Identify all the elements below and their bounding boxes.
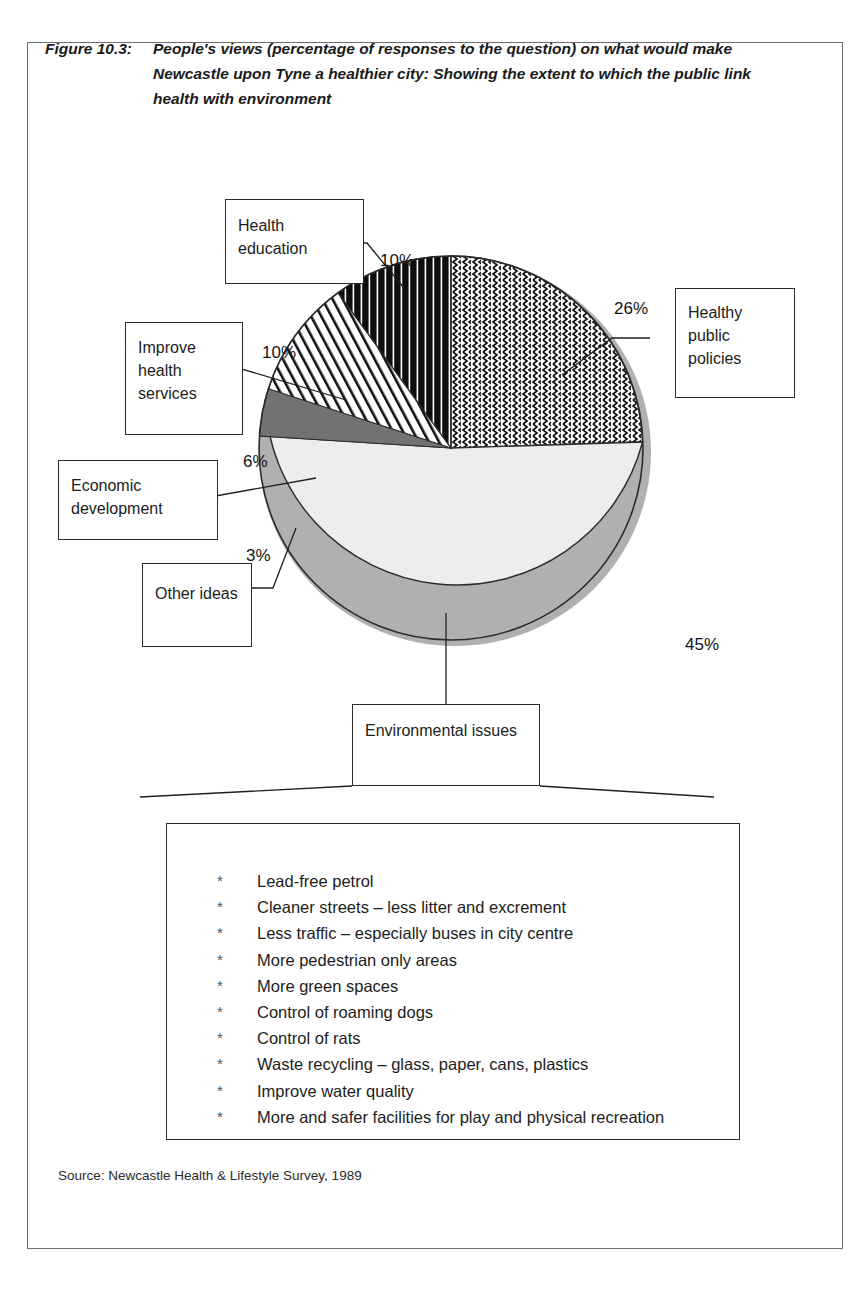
callout-health-education[interactable]: Health education <box>225 199 364 284</box>
callout-economic-development-label: Economic development <box>71 474 205 520</box>
callout-other-ideas[interactable]: Other ideas <box>142 563 252 647</box>
source-note: Source: Newcastle Health & Lifestyle Sur… <box>58 1168 362 1183</box>
list-item-label: Less traffic – especially buses in city … <box>257 924 573 942</box>
list-item: *More green spaces <box>217 973 739 999</box>
asterisk-bullet-icon: * <box>217 894 223 920</box>
callout-environmental-issues-label: Environmental issues <box>365 719 527 742</box>
pct-label-healthy-public-policies: 26% <box>614 299 648 319</box>
list-item-label: More pedestrian only areas <box>257 951 457 969</box>
asterisk-bullet-icon: * <box>217 1051 223 1077</box>
list-item-label: Cleaner streets – less litter and excrem… <box>257 898 566 916</box>
asterisk-bullet-icon: * <box>217 973 223 999</box>
figure-number: Figure 10.3: <box>45 36 153 61</box>
list-item: *More and safer facilities for play and … <box>217 1104 739 1130</box>
environmental-issues-list-box: *Lead-free petrol*Cleaner streets – less… <box>166 823 740 1140</box>
callout-other-ideas-label: Other ideas <box>155 582 239 605</box>
list-item-label: Lead-free petrol <box>257 872 374 890</box>
asterisk-bullet-icon: * <box>217 1104 223 1130</box>
asterisk-bullet-icon: * <box>217 1078 223 1104</box>
asterisk-bullet-icon: * <box>217 947 223 973</box>
callout-improve-health-services-label: Improve health services <box>138 336 230 405</box>
list-item: *Lead-free petrol <box>217 868 739 894</box>
asterisk-bullet-icon: * <box>217 1025 223 1051</box>
callout-improve-health-services[interactable]: Improve health services <box>125 322 243 435</box>
list-item: *Less traffic – especially buses in city… <box>217 920 739 946</box>
list-item-label: Control of rats <box>257 1029 361 1047</box>
list-item: *Control of rats <box>217 1025 739 1051</box>
list-item: *Waste recycling – glass, paper, cans, p… <box>217 1051 739 1077</box>
list-item-label: More and safer facilities for play and p… <box>257 1108 664 1126</box>
list-item: *More pedestrian only areas <box>217 947 739 973</box>
pct-label-environmental-issues: 45% <box>685 635 719 655</box>
pct-label-improve-health-services: 10% <box>262 343 296 363</box>
list-item-label: Improve water quality <box>257 1082 414 1100</box>
list-item-label: Waste recycling – glass, paper, cans, pl… <box>257 1055 588 1073</box>
asterisk-bullet-icon: * <box>217 999 223 1025</box>
callout-healthy-public-policies[interactable]: Healthy public policies <box>675 288 795 398</box>
list-item: *Cleaner streets – less litter and excre… <box>217 894 739 920</box>
pct-label-economic-development: 6% <box>243 452 268 472</box>
callout-health-education-label: Health education <box>238 214 351 260</box>
environmental-issues-list: *Lead-free petrol*Cleaner streets – less… <box>167 824 739 1130</box>
callout-economic-development[interactable]: Economic development <box>58 460 218 540</box>
figure-caption-text: People's views (percentage of responses … <box>153 36 753 111</box>
list-item: *Control of roaming dogs <box>217 999 739 1025</box>
callout-environmental-issues[interactable]: Environmental issues <box>352 704 540 786</box>
asterisk-bullet-icon: * <box>217 868 223 894</box>
list-item-label: More green spaces <box>257 977 398 995</box>
list-item: *Improve water quality <box>217 1078 739 1104</box>
pct-label-other-ideas: 3% <box>246 546 271 566</box>
asterisk-bullet-icon: * <box>217 920 223 946</box>
list-item-label: Control of roaming dogs <box>257 1003 433 1021</box>
figure-caption: Figure 10.3:People's views (percentage o… <box>45 36 765 111</box>
pct-label-health-education: 10% <box>380 251 414 271</box>
callout-healthy-public-policies-label: Healthy public policies <box>688 301 782 370</box>
